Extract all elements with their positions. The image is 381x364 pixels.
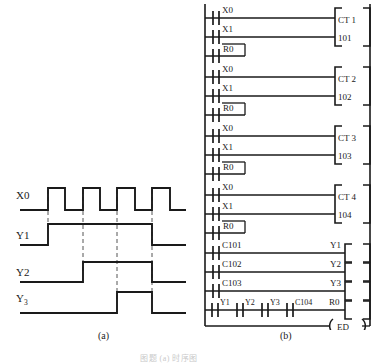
contact-label-y1-r0: Y1 [220,298,230,307]
waveform-x0 [20,188,186,210]
counter-block-ct3[interactable]: CT 3 103 [335,126,370,164]
end-coil-left [330,319,333,330]
counter-block-ct1-preset: 101 [338,33,352,43]
counter-block-ct3-name: CT 3 [338,133,357,143]
contact-label-y3-r0: Y3 [270,298,280,307]
end-coil-right [362,319,365,330]
contact-label-c102: C102 [222,259,242,269]
rung-end[interactable]: ED [205,319,370,330]
contact-label-x1-ct2: X1 [222,83,233,93]
end-instruction-label: ED [337,322,349,330]
contact-label-y2-r0: Y2 [245,298,255,307]
contact-label-x0-ct4: X0 [222,182,233,192]
signal-label-y1: Y1 [16,229,29,241]
contact-label-x0-ct2: X0 [222,64,233,74]
signal-label-y3: Y [16,292,24,304]
contact-label-c104-r0: C104 [295,298,312,307]
counter-block-ct1[interactable]: CT 1 101 [335,8,370,46]
contact-label-r0-ct4: R0 [223,221,234,231]
contact-label-r0-ct3: R0 [223,162,234,172]
counter-block-ct4-preset: 104 [338,210,352,220]
signal-label-y2: Y2 [16,266,29,278]
rung-ct2[interactable]: X0 X1 R0 CT 2 102 [205,64,370,122]
rung-ct4[interactable]: X0 X1 R0 CT 4 104 [205,182,370,240]
rung-ct3[interactable]: X0 X1 R0 CT 3 103 [205,123,370,181]
coil-label-r0: R0 [329,297,340,307]
ladder-diagram: X0 X1 R0 CT 1 101 [190,0,381,330]
waveform-y1 [20,224,186,245]
caption-a: (a) [98,330,109,341]
contact-label-c103: C103 [222,278,242,288]
coil-label-y3: Y3 [330,278,341,288]
counter-block-ct2[interactable]: CT 2 102 [335,67,370,105]
contact-label-x1-ct1: X1 [222,24,233,34]
contact-label-x1-ct3: X1 [222,142,233,152]
coil-label-y1: Y1 [330,240,341,250]
rung-ct1[interactable]: X0 X1 R0 CT 1 101 [205,5,370,63]
coil-r0[interactable] [345,301,370,319]
signal-label-x0: X0 [16,189,30,201]
coil-y1[interactable] [345,244,370,262]
waveform-y3 [20,292,186,313]
figure-container: X0 Y1 Y2 Y 3 [0,0,381,364]
contact-label-r0-ct1: R0 [223,44,234,54]
counter-block-ct2-preset: 102 [338,92,352,102]
counter-block-ct2-name: CT 2 [338,74,356,84]
counter-block-ct4[interactable]: CT 4 104 [335,185,370,223]
timing-diagram: X0 Y1 Y2 Y 3 [0,0,190,330]
contact-label-x0-ct3: X0 [222,123,233,133]
contact-label-r0-ct2: R0 [223,103,234,113]
counter-block-ct1-name: CT 1 [338,15,356,25]
coil-y3[interactable] [345,282,370,300]
counter-block-ct3-preset: 103 [338,151,352,161]
waveform-y2 [20,262,186,282]
coil-y2[interactable] [345,263,370,281]
contact-label-x0-ct1: X0 [222,5,233,15]
caption-b: (b) [280,330,292,341]
contact-label-x1-ct4: X1 [222,201,233,211]
caption-figure-bottom: 图题 (a) 时序图 [140,352,198,363]
signal-label-y3-subscript: 3 [24,298,28,307]
rung-r0[interactable]: Y1 Y2 Y3 C104 R0 [205,297,370,319]
counter-block-ct4-name: CT 4 [338,192,357,202]
contact-label-c101: C101 [222,240,242,250]
rung-y3[interactable]: C103 Y3 [205,278,370,300]
coil-label-y2: Y2 [330,259,341,269]
